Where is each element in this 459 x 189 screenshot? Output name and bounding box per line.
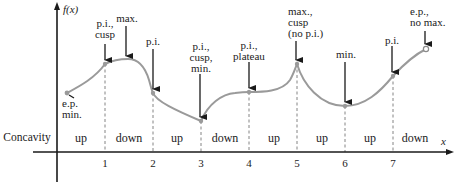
concavity-interval-0-1: up [75,131,87,146]
tick-label-3: 3 [198,157,204,169]
open-endpoint [423,46,428,51]
annotation-min-6: min. [333,49,359,60]
concavity-interval-4-5: up [268,131,280,146]
tick-label-5: 5 [294,157,300,169]
annotation-endpoint-no-max: e.p., no max. [410,6,450,28]
point-x2 [151,91,155,95]
point-x1 [103,62,107,66]
tick-label-1: 1 [102,157,108,169]
tick-label-7: 7 [390,157,396,169]
concavity-interval-3-4: down [212,131,239,146]
concavity-interval-1-2: down [116,131,143,146]
point-endpoint-min [65,91,70,96]
x-axis-label: x [441,135,446,147]
annotation-max-cusp-no-pi-5: max., cusp (no p.i.) [288,6,338,39]
concavity-interval-2-3: up [171,131,183,146]
concavity-label: Concavity [3,131,50,143]
tick-label-4: 4 [246,157,252,169]
point-x3 [199,119,203,123]
point-x5 [295,62,299,66]
annotation-pi-plateau-4: p.i., plateau [228,40,270,62]
annotation-endpoint-min: e.p. min. [62,98,82,120]
y-axis-label: f(x) [63,3,78,15]
tick-label-2: 2 [150,157,156,169]
concavity-interval-6-7: up [364,131,376,146]
point-x4 [247,90,251,94]
point-x6 [343,104,347,108]
tick-label-6: 6 [342,157,348,169]
annotation-pi-2: p.i. [140,36,166,47]
annotation-max: max. [112,13,142,24]
annotation-pi-7: p.i. [379,35,405,46]
concavity-interval-5-6: up [316,131,328,146]
concavity-interval-7-end: down [402,131,429,146]
point-x7 [391,74,395,78]
annotation-pi-cusp-min-3: p.i., cusp, min. [183,41,219,74]
